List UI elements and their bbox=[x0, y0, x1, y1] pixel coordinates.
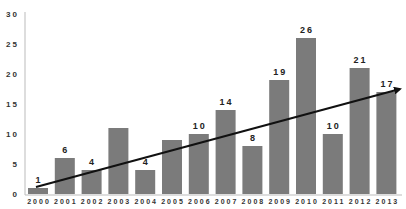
bar-2007 bbox=[216, 110, 236, 194]
bar-2001 bbox=[55, 158, 75, 194]
x-tick-label: 2006 bbox=[188, 198, 212, 205]
x-tick-label: 2002 bbox=[81, 198, 105, 205]
bar-2004 bbox=[135, 170, 155, 194]
data-label: 10 bbox=[193, 121, 207, 131]
x-axis: 2000200120022003200420052006200720082009… bbox=[27, 198, 399, 205]
data-label: 19 bbox=[273, 67, 287, 77]
data-label: 26 bbox=[300, 25, 314, 35]
x-tick-label: 2007 bbox=[215, 198, 239, 205]
bar-2003 bbox=[108, 128, 128, 194]
data-label: 21 bbox=[354, 55, 368, 65]
y-tick-label: 25 bbox=[6, 40, 19, 49]
x-tick-label: 2004 bbox=[134, 198, 158, 205]
x-tick-label: 2010 bbox=[295, 198, 319, 205]
bar-2012 bbox=[350, 68, 370, 194]
bars bbox=[28, 38, 396, 194]
data-label: 17 bbox=[380, 79, 394, 89]
x-tick-label: 2011 bbox=[322, 198, 345, 205]
bar-2011 bbox=[323, 134, 343, 194]
y-tick-label: 5 bbox=[13, 160, 19, 169]
bar-2013 bbox=[376, 92, 396, 194]
x-tick-label: 2001 bbox=[54, 198, 78, 205]
data-label: 4 bbox=[89, 157, 96, 167]
y-tick-label: 15 bbox=[6, 100, 19, 109]
x-tick-label: 2000 bbox=[27, 198, 51, 205]
bar-2008 bbox=[242, 146, 262, 194]
data-label: 8 bbox=[250, 133, 257, 143]
x-tick-label: 2012 bbox=[349, 198, 373, 205]
x-tick-label: 2009 bbox=[268, 198, 292, 205]
y-tick-label: 30 bbox=[6, 10, 19, 19]
x-tick-label: 2013 bbox=[376, 198, 400, 205]
y-tick-label: 10 bbox=[6, 130, 19, 139]
x-tick-label: 2005 bbox=[161, 198, 185, 205]
bar-2009 bbox=[269, 80, 289, 194]
y-tick-label: 20 bbox=[6, 70, 19, 79]
data-label: 10 bbox=[327, 121, 341, 131]
x-tick-label: 2003 bbox=[108, 198, 132, 205]
y-tick-label: 0 bbox=[13, 190, 19, 199]
bar-2000 bbox=[28, 188, 48, 194]
bar-chart: 051015202530 1644101481926102117 2000200… bbox=[0, 0, 406, 209]
data-label: 1 bbox=[35, 175, 42, 185]
x-tick-label: 2008 bbox=[242, 198, 266, 205]
data-label: 6 bbox=[62, 145, 69, 155]
data-label: 14 bbox=[220, 97, 234, 107]
